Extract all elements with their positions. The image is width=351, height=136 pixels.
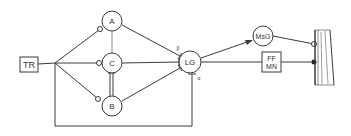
muscle-bar <box>315 30 334 85</box>
node-lg-label: LG <box>185 58 196 67</box>
node-c-label: C <box>109 59 115 68</box>
node-a-label: A <box>109 17 115 26</box>
node-msg-label: MsG <box>256 33 271 40</box>
node-ffmn-label-1: FF <box>267 55 276 62</box>
terminal-open-b <box>96 97 101 102</box>
terminal-open-a <box>98 27 103 32</box>
edge-b-lg <box>122 68 180 101</box>
arrowhead-icon <box>245 40 253 45</box>
terminal-open-c <box>97 61 102 66</box>
edge-msg-muscle <box>273 36 314 44</box>
neural-circuit-diagram: TR A C B LG MsG FF MN β α <box>0 0 351 136</box>
edge-lg-msg <box>201 41 250 58</box>
node-tr-label: TR <box>23 60 35 70</box>
edge-a-lg <box>122 25 180 56</box>
annotation-beta: β <box>177 45 180 51</box>
edge-c-lg <box>122 62 179 63</box>
edge-junction-a <box>55 30 99 63</box>
edge-junction-b <box>55 63 97 98</box>
node-b-label: B <box>109 102 114 111</box>
annotation-alpha: α <box>198 75 201 81</box>
edge-tr-junction <box>38 63 55 64</box>
node-ffmn-label-2: MN <box>266 63 277 70</box>
